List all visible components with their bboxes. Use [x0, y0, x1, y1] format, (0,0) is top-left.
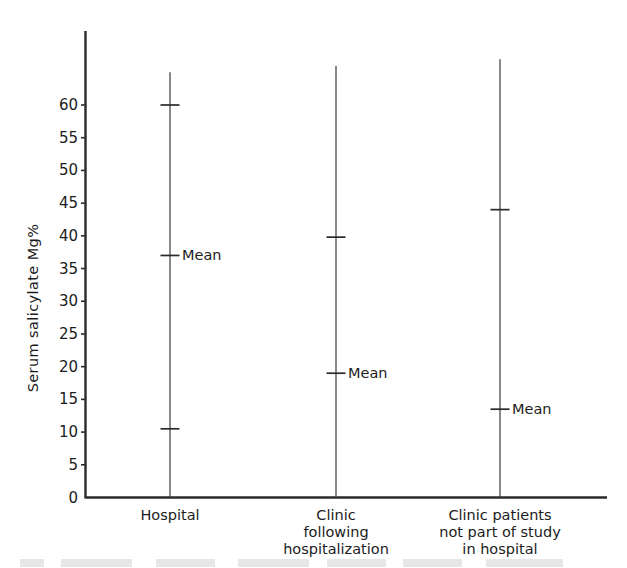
category-label-line: Clinic patients — [439, 507, 561, 524]
chart-figure: Serum salicylate Mg% 0510152025303540455… — [0, 0, 627, 568]
category-label-line: not part of study — [439, 524, 561, 541]
mean-label-1: Mean — [348, 366, 388, 381]
category-label-line: following — [283, 524, 389, 541]
plot-area — [0, 0, 627, 568]
category-label-line: Clinic — [283, 507, 389, 524]
category-label-line: hospitalization — [283, 541, 389, 558]
data-series — [161, 59, 510, 497]
category-label-line: Hospital — [140, 507, 199, 524]
mean-label-0: Mean — [182, 248, 222, 263]
category-label-2: Clinic patientsnot part of studyin hospi… — [439, 507, 561, 558]
category-label-0: Hospital — [140, 507, 199, 524]
category-label-1: Clinicfollowinghospitalization — [283, 507, 389, 558]
mean-label-2: Mean — [512, 402, 552, 417]
page-caption-fragment — [20, 559, 610, 567]
category-label-line: in hospital — [439, 541, 561, 558]
